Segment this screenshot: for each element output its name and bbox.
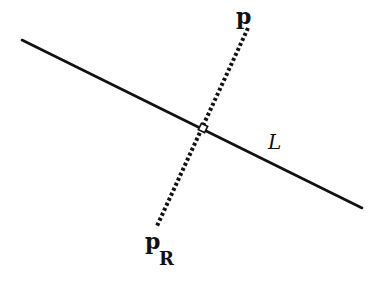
diagram-canvas — [0, 0, 380, 294]
label-point-pr-subscript: R — [159, 250, 174, 268]
label-line-l: L — [268, 132, 281, 152]
line-l — [22, 40, 362, 208]
label-point-p: p — [236, 5, 251, 27]
